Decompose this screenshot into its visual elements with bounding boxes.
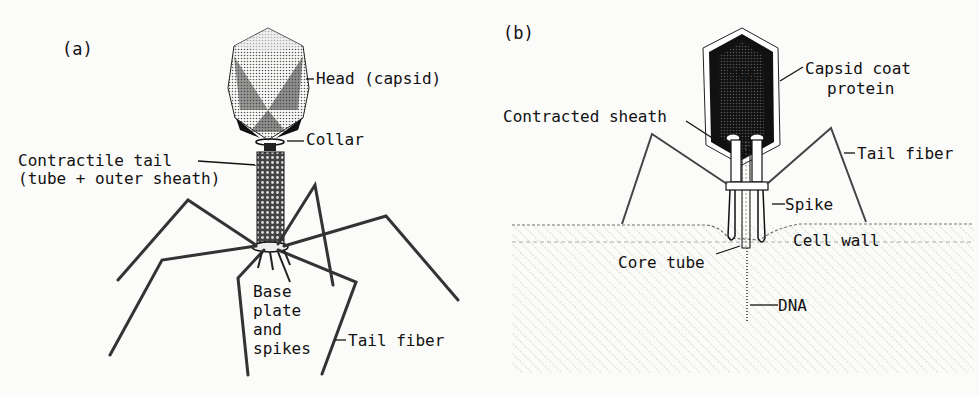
capsid-head-icon [228,28,309,140]
label-tail-fiber-b: Tail fiber [857,145,953,163]
contractile-tail-icon [257,152,284,244]
label-and: and [253,321,282,339]
label-capsid-coat: Capsid coat [805,60,911,78]
contracted-sheath-icon [731,140,741,182]
panel-a-letter: (a) [62,40,93,58]
label-tail-composition: (tube + outer sheath) [18,170,220,188]
label-cell-wall: Cell wall [793,232,880,250]
label-spike: Spike [785,196,833,214]
label-plate: plate [253,302,301,320]
panel-b-letter: (b) [503,24,534,42]
label-capsid-protein: protein [827,80,894,98]
label-dna-head: DNA [727,68,756,86]
label-spikes: spikes [253,340,311,358]
label-core-tube: Core tube [618,254,705,272]
label-dna-injected: DNA [778,297,807,315]
core-tube-icon [742,140,750,248]
label-head-capsid: Head (capsid) [316,70,441,88]
label-contractile-tail: Contractile tail [18,152,172,170]
label-tail-fiber-a: Tail fiber [348,332,444,350]
label-contracted-sheath: Contracted sheath [503,108,667,126]
label-base: Base [253,283,292,301]
base-spikes-icon [258,250,290,282]
phage-diagram: (a) Head (capsid) Collar Contractile tai… [0,0,979,396]
label-collar: Collar [306,131,364,149]
